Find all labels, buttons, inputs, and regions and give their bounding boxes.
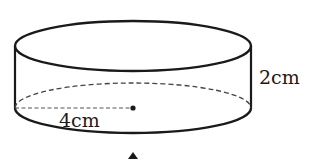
center-point: [130, 105, 135, 110]
top-face-ellipse: [15, 21, 251, 71]
cylinder-diagram: 2cm 4cm: [0, 0, 316, 159]
triangle-marker-icon: [128, 152, 138, 159]
bottom-face-hidden-edge: [15, 83, 251, 108]
bottom-face-visible-edge: [15, 108, 251, 133]
height-label: 2cm: [259, 66, 300, 88]
radius-label: 4cm: [59, 109, 100, 131]
